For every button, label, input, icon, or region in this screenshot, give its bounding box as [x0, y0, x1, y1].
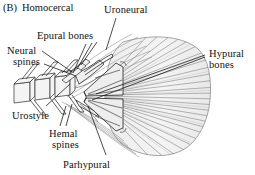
- leader-hemal-1: [66, 104, 72, 126]
- label-uroneural: Uroneural: [104, 4, 147, 16]
- figure-panel-b: (B) Homocercal: [0, 0, 255, 175]
- label-hypural-bones-line1: Hypural: [209, 48, 244, 60]
- label-hypural-bones-line2: bones: [209, 59, 234, 71]
- label-epural-bones: Epural bones: [37, 30, 93, 42]
- vertebral-column: [14, 70, 75, 103]
- leader-hemal-2: [60, 106, 66, 126]
- label-hemal-spines-line2: spines: [52, 139, 79, 151]
- label-parhypural: Parhypural: [63, 159, 110, 171]
- leader-uroneural: [106, 18, 116, 50]
- label-neural-spines-line2: spines: [13, 56, 40, 68]
- label-urostyle: Urostyle: [12, 110, 49, 122]
- label-neural-spines-line1: Neural: [7, 45, 36, 57]
- label-hemal-spines-line1: Hemal: [49, 128, 78, 140]
- tail-skeleton-illustration: [0, 0, 255, 175]
